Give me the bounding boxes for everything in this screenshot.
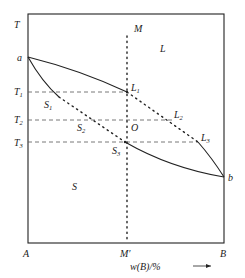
phase-diagram: T a b T1 T2 T3 M L S O L1 L2 L3 S1 S2 S3… — [0, 0, 245, 278]
label-s1: S1 — [44, 99, 52, 111]
label-t1: T1 — [14, 86, 23, 98]
label-l3: L3 — [200, 132, 211, 144]
label-m: M — [133, 23, 143, 34]
label-t2: T2 — [14, 114, 24, 126]
label-a: a — [17, 52, 22, 63]
label-l2: L2 — [173, 109, 184, 121]
region-liquid-label: L — [159, 43, 166, 54]
label-b: b — [228, 172, 233, 183]
region-solid-label: S — [72, 181, 77, 192]
label-s3: S3 — [112, 145, 121, 157]
label-right-b: B — [220, 248, 226, 259]
y-axis-label: T — [14, 19, 21, 30]
point-l1 — [126, 91, 128, 93]
label-t3: T3 — [14, 137, 24, 149]
solidus-curve-upper — [28, 57, 59, 97]
point-s3 — [124, 141, 126, 143]
liquidus-curve-upper — [28, 57, 127, 92]
liquidus-curve-lower — [198, 142, 224, 177]
plot-frame — [28, 14, 224, 243]
label-s2: S2 — [77, 122, 86, 134]
label-m-prime: M′ — [119, 248, 131, 259]
solid-composition-path — [59, 97, 125, 142]
solidus-curve-lower — [125, 142, 224, 177]
label-origin-a: A — [22, 248, 30, 259]
x-axis-label-text: w(B)/% — [130, 261, 161, 273]
arrow-right-icon — [206, 264, 211, 268]
liquid-composition-path — [127, 92, 198, 142]
label-l1: L1 — [130, 82, 140, 94]
label-o: O — [131, 122, 138, 133]
